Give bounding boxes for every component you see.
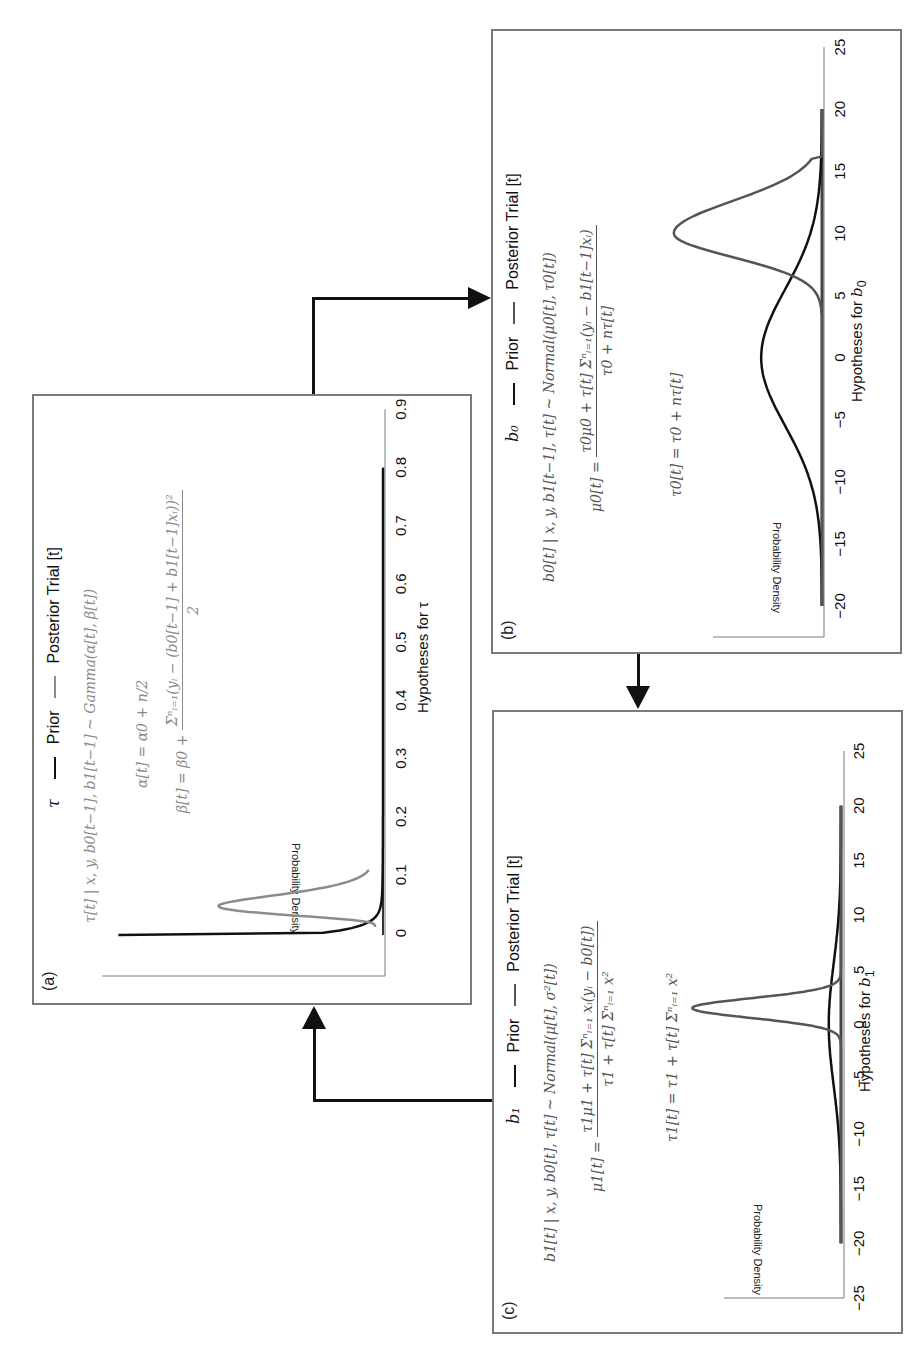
plot-area [493, 27, 904, 652]
x-tick-label: 0.5 [392, 632, 409, 653]
arrowhead-up-icon [302, 1006, 326, 1029]
panel-c-b1: (c) b₁ Prior Posterior Trial [t] b1[t] |… [492, 710, 903, 1334]
x-tick-label: 25 [831, 39, 848, 56]
x-tick-label: −20 [850, 1231, 867, 1256]
x-tick-label: 0.6 [392, 573, 409, 594]
x-tick-label: 10 [831, 225, 848, 242]
x-tick-label: 0.8 [392, 457, 409, 478]
panel-b-b0: (b) b₀ Prior Posterior Trial [t] b0[t] |… [491, 29, 902, 654]
posterior-curve [674, 109, 822, 606]
x-tick-label: 5 [831, 291, 848, 299]
x-tick-label: −15 [850, 1176, 867, 1201]
posterior-curve [218, 870, 375, 927]
x-tick-label: 15 [831, 163, 848, 180]
x-tick-label: 20 [831, 101, 848, 118]
arrowhead-down-icon [626, 686, 650, 709]
x-tick-label: −5 [831, 411, 848, 428]
x-tick-label: 0.3 [392, 748, 409, 769]
prior-curve [761, 109, 822, 606]
x-tick-label: 0 [850, 1020, 867, 1028]
x-tick-label: −5 [850, 1071, 867, 1088]
x-tick-label: 20 [850, 797, 867, 814]
posterior-curve [692, 806, 841, 1244]
x-tick-label: 0.1 [392, 864, 409, 885]
arrowhead-right-icon [468, 287, 491, 309]
x-tick-label: −20 [831, 593, 848, 618]
plot-area [494, 708, 905, 1332]
x-tick-label: 0 [831, 353, 848, 361]
x-tick-label: −15 [831, 531, 848, 556]
x-tick-label: 0.9 [392, 399, 409, 420]
x-axis-label: Hypotheses for b0 [848, 280, 869, 402]
x-tick-label: 0 [392, 929, 409, 937]
x-tick-label: 5 [850, 966, 867, 974]
prior-curve [118, 468, 383, 935]
prior-curve [829, 806, 841, 1244]
x-tick-label: −10 [850, 1121, 867, 1146]
x-tick-label: 0.4 [392, 690, 409, 711]
x-tick-label: 15 [850, 852, 867, 869]
x-axis-label: Hypotheses for τ [414, 602, 431, 713]
x-tick-label: 10 [850, 907, 867, 924]
x-tick-label: −25 [850, 1285, 867, 1310]
x-tick-label: 25 [850, 743, 867, 760]
x-tick-label: −10 [831, 469, 848, 494]
panel-a-tau: (a) τ Prior Posterior Trial [t] τ[t] | x… [32, 394, 472, 1005]
x-tick-label: 0.7 [392, 515, 409, 536]
x-tick-label: 0.2 [392, 806, 409, 827]
